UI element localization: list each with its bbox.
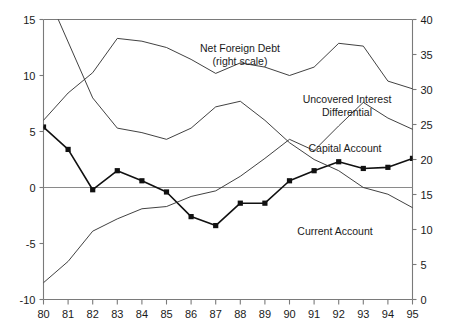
left-tick-label: 5 — [29, 126, 35, 138]
x-tick-label: 83 — [111, 308, 123, 320]
economic-indicators-line-chart: -10-5051015 0510152025303540 80818283848… — [0, 0, 456, 333]
series-data-point — [336, 159, 341, 164]
series-data-point — [410, 156, 415, 161]
series-data-point — [262, 201, 267, 206]
right-tick-label: 40 — [421, 14, 433, 26]
x-tick-label: 92 — [333, 308, 345, 320]
series-annotations: Net Foreign Debt(right scale)Uncovered I… — [200, 42, 391, 237]
left-axis-ticks: -10-5051015 — [20, 14, 44, 306]
annotation-current-account: Current Account — [297, 225, 372, 237]
x-tick-label: 80 — [37, 308, 49, 320]
right-tick-label: 5 — [421, 259, 427, 271]
annotation-uncovered-interest-differential: Differential — [322, 106, 372, 118]
left-tick-label: -5 — [26, 238, 36, 250]
right-axis-ticks: 0510152025303540 — [413, 14, 433, 306]
right-tick-label: 10 — [421, 224, 433, 236]
x-tick-label: 85 — [160, 308, 172, 320]
series-data-point — [213, 223, 218, 228]
series-capital-account — [41, 124, 415, 228]
x-tick-label: 90 — [283, 308, 295, 320]
series-data-point — [189, 214, 194, 219]
series-data-point — [90, 187, 95, 192]
right-tick-label: 25 — [421, 119, 433, 131]
series-data-point — [287, 178, 292, 183]
series-data-point — [312, 168, 317, 173]
annotation-net-foreign-debt: (right scale) — [213, 55, 268, 67]
series-current-account — [44, 102, 413, 282]
x-tick-label: 82 — [87, 308, 99, 320]
chart-container: -10-5051015 0510152025303540 80818283848… — [0, 0, 456, 333]
series-data-point — [385, 165, 390, 170]
annotation-net-foreign-debt: Net Foreign Debt — [200, 42, 280, 54]
series-data-point — [66, 147, 71, 152]
left-tick-label: 15 — [23, 14, 35, 26]
x-tick-label: 93 — [357, 308, 369, 320]
x-tick-label: 86 — [185, 308, 197, 320]
x-tick-label: 91 — [308, 308, 320, 320]
x-tick-label: 87 — [210, 308, 222, 320]
left-tick-label: -10 — [20, 294, 36, 306]
x-tick-label: 95 — [406, 308, 418, 320]
x-tick-label: 81 — [62, 308, 74, 320]
left-tick-label: 10 — [23, 70, 35, 82]
series-data-point — [164, 189, 169, 194]
right-tick-label: 30 — [421, 84, 433, 96]
x-tick-label: 94 — [382, 308, 394, 320]
series-data-point — [115, 168, 120, 173]
right-tick-label: 35 — [421, 49, 433, 61]
series-data-point — [238, 201, 243, 206]
right-tick-label: 15 — [421, 189, 433, 201]
x-tick-label: 89 — [259, 308, 271, 320]
annotation-capital-account: Capital Account — [309, 142, 382, 154]
series-line — [44, 102, 413, 282]
left-tick-label: 0 — [29, 182, 35, 194]
x-tick-label: 84 — [136, 308, 148, 320]
series-data-point — [41, 124, 46, 129]
right-tick-label: 0 — [421, 294, 427, 306]
series-data-point — [361, 166, 366, 171]
x-axis-ticks: 80818283848586878889909192939495 — [37, 300, 418, 320]
right-tick-label: 20 — [421, 154, 433, 166]
annotation-uncovered-interest-differential: Uncovered Interest — [303, 93, 392, 105]
series-data-point — [139, 178, 144, 183]
x-tick-label: 88 — [234, 308, 246, 320]
